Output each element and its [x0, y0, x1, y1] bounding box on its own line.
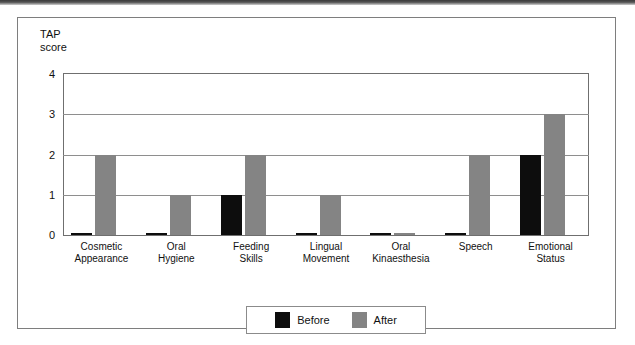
- scan-edge-artifact: [0, 0, 635, 5]
- bar-after: [170, 195, 191, 235]
- bar-group: [363, 74, 438, 235]
- bar-after: [394, 233, 415, 236]
- bar-after: [469, 155, 490, 236]
- bar-group: [139, 74, 214, 235]
- bar-before: [296, 233, 317, 236]
- y-axis-tick-label: 3: [15, 108, 55, 120]
- figure-frame: TAP score 01234 Cosmetic AppearanceOral …: [17, 17, 616, 329]
- legend-item: After: [352, 312, 397, 328]
- legend-label: After: [374, 314, 397, 326]
- bar-after: [245, 155, 266, 236]
- y-axis-tick-label: 1: [15, 189, 55, 201]
- plot-wrapper: 01234 Cosmetic AppearanceOral HygieneFee…: [63, 73, 589, 236]
- chart-legend: BeforeAfter: [246, 306, 426, 334]
- bar-group: [64, 74, 139, 235]
- bar-before: [146, 233, 167, 236]
- y-axis-title: TAP score: [40, 28, 67, 54]
- y-axis-tick-label: 0: [15, 229, 55, 241]
- bar-after: [544, 114, 565, 235]
- bar-after: [95, 155, 116, 236]
- bar-after: [320, 195, 341, 235]
- y-axis-tick-label: 2: [15, 149, 55, 161]
- bar-group: [214, 74, 289, 235]
- bar-before: [370, 233, 391, 236]
- bars-layer: [64, 74, 588, 235]
- y-axis-tick-label: 4: [15, 68, 55, 80]
- legend-item: Before: [275, 312, 329, 328]
- bar-before: [221, 195, 242, 235]
- bar-group: [438, 74, 513, 235]
- bar-group: [289, 74, 364, 235]
- legend-label: Before: [297, 314, 329, 326]
- bar-before: [520, 155, 541, 236]
- legend-swatch: [275, 312, 290, 328]
- x-axis-category-label: Emotional Status: [496, 241, 606, 265]
- legend-swatch: [352, 312, 367, 328]
- bar-before: [445, 233, 466, 236]
- bar-group: [513, 74, 588, 235]
- bar-before: [71, 233, 92, 236]
